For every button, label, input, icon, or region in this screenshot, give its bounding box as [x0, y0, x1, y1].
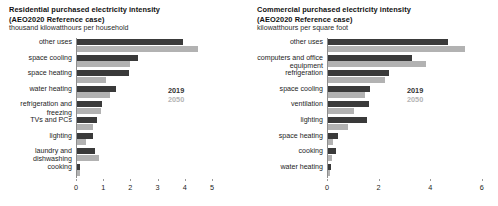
- bar-group: [77, 70, 245, 83]
- legend-label-2050: 2050: [168, 95, 184, 104]
- bar-2050: [77, 108, 101, 114]
- category-label: laundry and dishwashing: [10, 147, 72, 163]
- bar-row: space cooling: [76, 54, 245, 70]
- bar-row: water heating: [327, 163, 494, 179]
- bar-row: other uses: [327, 38, 494, 54]
- x-tick-mark: [158, 179, 159, 181]
- bar-2050: [328, 155, 332, 161]
- x-tick-mark: [130, 179, 131, 181]
- bar-group: [77, 101, 245, 114]
- plot-area-commercial: other usescomputers and office equipment…: [327, 38, 494, 178]
- bar-group: [328, 55, 494, 68]
- bar-2050: [77, 139, 86, 145]
- category-label: space heating: [10, 69, 72, 77]
- bar-2050: [77, 92, 110, 98]
- x-tick-label: 1: [101, 183, 105, 192]
- legend-commercial: 20192050: [407, 86, 423, 104]
- bar-group: [328, 70, 494, 83]
- x-tick-mark: [212, 179, 213, 181]
- bar-group: [77, 148, 245, 161]
- bar-row: other uses: [76, 38, 245, 54]
- plot-area-residential: other usesspace coolingspace heatingwate…: [76, 38, 245, 178]
- bar-group: [328, 39, 494, 52]
- legend-label-2019: 2019: [168, 86, 184, 95]
- bar-row: refrigeration: [327, 69, 494, 85]
- bar-2050: [328, 61, 426, 67]
- x-tick-mark: [103, 179, 104, 181]
- bar-2050: [77, 170, 80, 176]
- x-tick-label: 5: [210, 183, 214, 192]
- bar-2050: [328, 124, 348, 130]
- bar-2050: [77, 46, 198, 52]
- bar-2050: [77, 77, 106, 83]
- bar-rows-commercial: other usescomputers and office equipment…: [327, 38, 494, 178]
- bar-row: laundry and dishwashing: [76, 147, 245, 163]
- bar-row: TVs and PCs: [76, 116, 245, 132]
- bar-row: lighting: [76, 132, 245, 148]
- legend-label-2050: 2050: [407, 95, 423, 104]
- bar-2050: [328, 77, 385, 83]
- bar-2019: [328, 55, 412, 61]
- chart-title-residential: Residential purchased electricity intens…: [9, 5, 245, 15]
- category-label: water heating: [255, 163, 323, 171]
- figure-container: Residential purchased electricity intens…: [0, 0, 498, 206]
- x-tick-label: 0: [325, 183, 329, 192]
- bar-2019: [328, 101, 369, 107]
- category-label: cooking: [10, 163, 72, 171]
- bar-row: computers and office equipment: [327, 54, 494, 70]
- bar-row: cooking: [76, 163, 245, 179]
- bar-group: [328, 133, 494, 146]
- bar-group: [328, 117, 494, 130]
- bar-2019: [328, 39, 448, 45]
- bar-2019: [328, 70, 389, 76]
- bar-2019: [77, 70, 129, 76]
- category-label: ventilation: [255, 100, 323, 108]
- bar-2050: [328, 46, 465, 52]
- x-tick-mark: [185, 179, 186, 181]
- x-tick-mark: [379, 179, 380, 181]
- x-tick-label: 4: [428, 183, 432, 192]
- chart-subtitle-residential: (AEO2020 Reference case): [9, 15, 245, 25]
- bar-2019: [77, 164, 80, 170]
- x-tick-label: 4: [183, 183, 187, 192]
- category-label: space heating: [255, 132, 323, 140]
- bar-2050: [77, 124, 93, 130]
- bar-2019: [328, 133, 338, 139]
- legend-label-2019: 2019: [407, 86, 423, 95]
- category-label: water heating: [10, 85, 72, 93]
- bar-row: space heating: [327, 132, 494, 148]
- category-label: lighting: [10, 132, 72, 140]
- bar-2019: [77, 148, 95, 154]
- bar-group: [77, 39, 245, 52]
- category-label: TVs and PCs: [10, 116, 72, 124]
- x-tick-mark: [482, 179, 483, 181]
- chart-unit-label-residential: thousand kilowatthours per household: [9, 24, 245, 34]
- chart-panel-residential: Residential purchased electricity intens…: [0, 0, 249, 206]
- bar-2050: [77, 61, 130, 67]
- bar-2019: [77, 101, 102, 107]
- bar-rows-residential: other usesspace coolingspace heatingwate…: [76, 38, 245, 178]
- chart-unit-label-commercial: kilowatthours per square foot: [257, 24, 494, 34]
- x-tick-label: 2: [128, 183, 132, 192]
- bar-2050: [328, 92, 365, 98]
- category-label: other uses: [10, 38, 72, 46]
- bar-group: [77, 86, 245, 99]
- bar-2019: [77, 86, 116, 92]
- bar-2050: [328, 170, 330, 176]
- chart-panel-commercial: Commercial purchased electricity intensi…: [249, 0, 498, 206]
- x-tick-label: 6: [480, 183, 484, 192]
- x-tick-label: 2: [377, 183, 381, 192]
- bar-2050: [77, 155, 99, 161]
- chart-title-block-residential: Residential purchased electricity intens…: [9, 5, 245, 34]
- bar-row: refrigeration and freezing: [76, 100, 245, 116]
- chart-title-commercial: Commercial purchased electricity intensi…: [257, 5, 494, 15]
- bar-2019: [77, 55, 138, 61]
- bar-row: space heating: [76, 69, 245, 85]
- bar-2050: [328, 139, 333, 145]
- bar-2019: [77, 39, 183, 45]
- bar-group: [77, 55, 245, 68]
- category-label: refrigeration: [255, 69, 323, 77]
- x-tick-mark: [327, 179, 328, 181]
- x-axis-residential: 012345: [0, 179, 249, 197]
- chart-title-block-commercial: Commercial purchased electricity intensi…: [257, 5, 494, 34]
